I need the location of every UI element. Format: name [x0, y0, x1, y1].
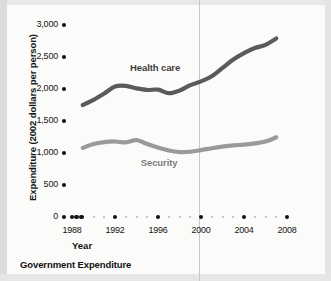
plot-area: Expenditure (2002 dollars per person) 05…: [0, 0, 331, 281]
government-expenditure-figure: Expenditure (2002 dollars per person) 05…: [0, 0, 331, 281]
series-line-security: [83, 137, 277, 152]
series-label-security: Security: [141, 157, 178, 168]
series-lines: [0, 0, 331, 281]
series-label-health-care: Health care: [130, 62, 180, 73]
x-axis-label: Year: [72, 240, 92, 251]
figure-caption: Government Expenditure: [20, 259, 131, 270]
